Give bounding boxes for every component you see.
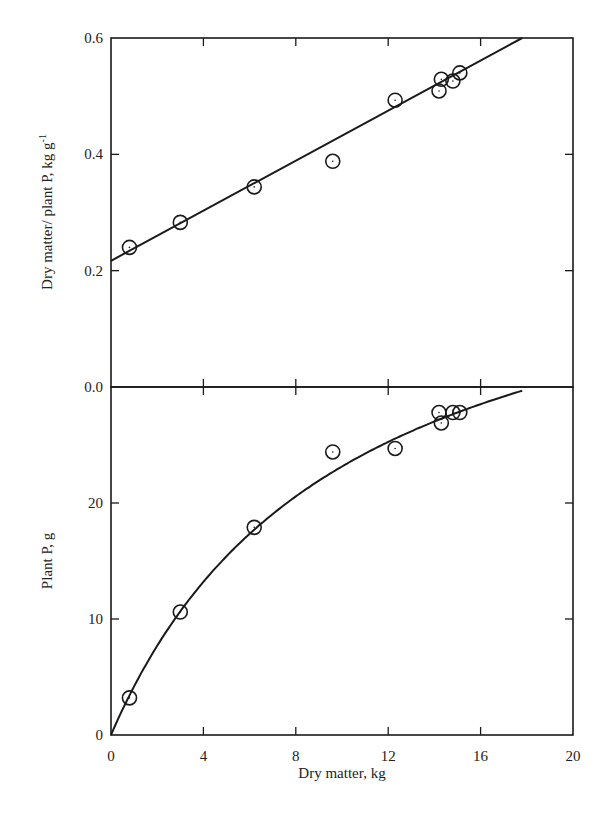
top-data-point-center	[253, 186, 255, 188]
top-panel-frame	[111, 38, 573, 387]
top-panel-y-axis-title: Dry matter/ plant P, kg g-1	[37, 134, 55, 290]
y-tick-label-bottom: 20	[88, 495, 103, 511]
y-tick-label-top: 0.6	[84, 30, 103, 46]
x-tick-label: 0	[107, 748, 115, 764]
bottom-fit-curve	[111, 391, 522, 735]
top-fit-line	[111, 38, 522, 261]
y-tick-label-top: 0.0	[84, 379, 103, 395]
bottom-data-point-center	[394, 448, 396, 450]
bottom-data-point-center	[253, 527, 255, 529]
top-data-point-center	[332, 161, 334, 163]
y-tick-label-top: 0.4	[84, 146, 103, 162]
bottom-data-point-center	[180, 611, 182, 613]
top-data-point-center	[129, 247, 131, 249]
top-data-point-center	[438, 90, 440, 92]
y-tick-label-bottom: 0	[96, 727, 104, 743]
y-tick-label-top: 0.2	[84, 263, 103, 279]
x-axis-title: Dry matter, kg	[298, 765, 386, 781]
top-data-point-center	[452, 80, 454, 82]
x-tick-label: 20	[566, 748, 581, 764]
y-tick-label-bottom: 10	[88, 611, 103, 627]
top-data-point-center	[459, 72, 461, 74]
top-data-point-center	[394, 99, 396, 101]
bottom-data-point-center	[441, 422, 443, 424]
x-tick-label: 12	[381, 748, 396, 764]
top-data-point-center	[180, 222, 182, 224]
bottom-data-point-center	[438, 412, 440, 414]
bottom-panel-frame	[111, 387, 573, 735]
bottom-data-point-center	[332, 451, 334, 453]
x-tick-label: 16	[473, 748, 489, 764]
top-data-point-center	[441, 78, 443, 80]
bottom-data-point-center	[129, 697, 131, 699]
bottom-data-point-center	[459, 412, 461, 414]
bottom-panel-y-axis-title: Plant P, g	[39, 532, 55, 589]
chart-figure: 0481216200.00.20.40.601020 Dry matter/ p…	[0, 0, 612, 832]
plot-frames	[111, 38, 573, 735]
x-tick-label: 4	[200, 748, 208, 764]
x-tick-label: 8	[292, 748, 300, 764]
